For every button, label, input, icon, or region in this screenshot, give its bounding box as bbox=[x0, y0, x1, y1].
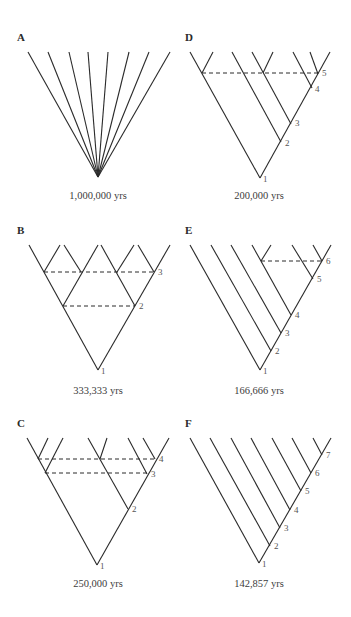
lineage-branch bbox=[310, 52, 318, 74]
lineage-branch bbox=[100, 438, 107, 459]
lineage-branch bbox=[292, 438, 311, 473]
caption-d: 200,000 yrs bbox=[234, 190, 284, 201]
lineage-branch bbox=[263, 52, 273, 73]
node-number-label: 6 bbox=[315, 468, 320, 478]
tree-panel-b bbox=[29, 245, 170, 370]
panel-label-e: E bbox=[185, 224, 192, 236]
lineage-branch bbox=[231, 438, 280, 528]
lineage-branch bbox=[190, 438, 259, 563]
caption-e: 166,666 yrs bbox=[234, 385, 284, 396]
lineage-branch bbox=[313, 245, 322, 261]
lineage-branch bbox=[251, 438, 290, 510]
tree-panel-c bbox=[27, 438, 169, 565]
lineage-branch bbox=[38, 438, 48, 459]
lineage-branch bbox=[98, 245, 170, 370]
lineage-branch bbox=[45, 438, 63, 473]
lineage-branch bbox=[261, 245, 271, 261]
lineage-branch bbox=[27, 438, 97, 565]
lineage-branch bbox=[232, 52, 281, 142]
node-number-label: 4 bbox=[294, 505, 299, 515]
node-number-label: 2 bbox=[285, 138, 290, 148]
lineage-branch bbox=[128, 438, 147, 474]
lineage-branch bbox=[260, 245, 331, 370]
phylogeny-figure: A D B E C F 1,000,000 yrs 200,000 yrs 33… bbox=[0, 0, 351, 617]
node-number-label: 1 bbox=[100, 561, 105, 571]
lineage-branch bbox=[260, 52, 330, 178]
tree-diagrams bbox=[0, 0, 351, 617]
lineage-branch bbox=[252, 245, 291, 315]
lineage-branch bbox=[231, 245, 281, 333]
lineage-branch bbox=[88, 52, 98, 177]
panel-label-b: B bbox=[17, 224, 24, 236]
node-number-label: 1 bbox=[263, 174, 268, 184]
lineage-branch bbox=[292, 245, 313, 279]
tree-panel-e bbox=[190, 245, 331, 370]
node-number-label: 4 bbox=[315, 84, 320, 94]
lineage-branch bbox=[252, 52, 291, 124]
lineage-branch bbox=[293, 52, 312, 88]
node-number-label: 7 bbox=[326, 450, 331, 460]
lineage-branch bbox=[202, 52, 213, 73]
lineage-branch bbox=[117, 245, 134, 272]
caption-c: 250,000 yrs bbox=[73, 578, 123, 589]
node-number-label: 1 bbox=[262, 559, 267, 569]
caption-b: 333,333 yrs bbox=[73, 385, 123, 396]
node-number-label: 2 bbox=[275, 346, 280, 356]
node-number-label: 3 bbox=[158, 267, 163, 277]
panel-label-a: A bbox=[17, 31, 25, 43]
lineage-branch bbox=[63, 245, 98, 306]
tree-panel-a bbox=[28, 52, 170, 177]
node-number-label: 3 bbox=[284, 523, 289, 533]
tree-panel-d bbox=[190, 52, 330, 178]
node-number-label: 2 bbox=[132, 504, 137, 514]
node-number-label: 5 bbox=[305, 486, 310, 496]
node-number-label: 1 bbox=[263, 366, 268, 376]
panel-label-d: D bbox=[185, 31, 193, 43]
node-number-label: 3 bbox=[151, 469, 156, 479]
lineage-branch bbox=[143, 438, 155, 459]
node-number-label: 3 bbox=[285, 328, 290, 338]
node-number-label: 2 bbox=[274, 541, 279, 551]
node-number-label: 2 bbox=[139, 301, 144, 311]
caption-f: 142,857 yrs bbox=[234, 578, 284, 589]
lineage-branch bbox=[190, 245, 260, 370]
lineage-branch bbox=[259, 438, 331, 563]
lineage-branch bbox=[64, 245, 81, 272]
tree-panel-f bbox=[190, 438, 331, 563]
lineage-branch bbox=[98, 52, 149, 177]
node-number-label: 5 bbox=[317, 274, 322, 284]
node-number-label: 3 bbox=[295, 118, 300, 128]
node-number-label: 4 bbox=[159, 454, 164, 464]
node-number-label: 5 bbox=[322, 68, 327, 78]
lineage-branch bbox=[44, 245, 60, 272]
lineage-branch bbox=[190, 52, 260, 178]
lineage-branch bbox=[138, 245, 154, 272]
lineage-branch bbox=[313, 438, 322, 455]
lineage-branch bbox=[28, 52, 98, 177]
node-number-label: 4 bbox=[295, 310, 300, 320]
node-number-label: 1 bbox=[101, 366, 106, 376]
panel-label-c: C bbox=[17, 417, 25, 429]
lineage-branch bbox=[98, 52, 170, 177]
panel-label-f: F bbox=[185, 417, 192, 429]
caption-a: 1,000,000 yrs bbox=[69, 190, 126, 201]
lineage-branch bbox=[101, 245, 135, 306]
node-number-label: 6 bbox=[326, 256, 331, 266]
